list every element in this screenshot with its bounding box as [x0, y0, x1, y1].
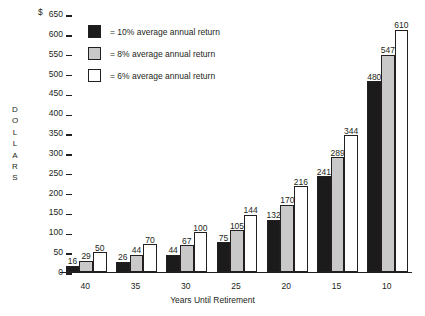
bar-value-label: 216 — [294, 178, 308, 187]
bar: 44 — [166, 255, 180, 272]
y-axis-tick-mark — [66, 273, 72, 274]
bar-value-label: 75 — [219, 234, 228, 243]
bar-value-label: 289 — [330, 149, 344, 158]
bar: 75 — [217, 242, 231, 272]
x-axis-tick-label: 30 — [161, 281, 211, 291]
y-axis-title: DOLLARS — [8, 104, 22, 184]
bar-group: 132170216 — [267, 14, 308, 272]
y-axis-title-letter: R — [8, 161, 22, 172]
bar: 289 — [331, 157, 345, 272]
x-axis-tick-label: 20 — [261, 281, 311, 291]
bar-value-label: 241 — [317, 168, 331, 177]
bar: 132 — [267, 220, 281, 272]
x-axis-tick-label: 35 — [110, 281, 160, 291]
bar-group: 162950 — [66, 14, 107, 272]
bar: 70 — [143, 244, 157, 272]
bar-value-label: 547 — [381, 46, 395, 55]
bar-value-label: 610 — [394, 21, 408, 30]
bar: 26 — [116, 262, 130, 272]
x-axis-tick-label: 25 — [211, 281, 261, 291]
bar-group: 241289344 — [317, 14, 358, 272]
bar-value-label: 44 — [168, 246, 177, 255]
x-axis-tick-label: 40 — [60, 281, 110, 291]
bar-group: 480547610 — [367, 14, 408, 272]
y-axis-title-letter: D — [8, 104, 22, 115]
bar-value-label: 50 — [95, 244, 104, 253]
bar-value-label: 344 — [344, 127, 358, 136]
bar: 144 — [244, 215, 258, 272]
bar: 100 — [194, 232, 208, 272]
y-axis-title-letter: L — [8, 138, 22, 149]
y-axis-title-letter: L — [8, 127, 22, 138]
y-axis-title-letter: A — [8, 150, 22, 161]
bar-value-label: 29 — [81, 252, 90, 261]
bar-value-label: 16 — [68, 257, 77, 266]
x-axis-baseline — [60, 272, 412, 273]
bar: 105 — [230, 230, 244, 272]
bar-value-label: 105 — [230, 222, 244, 231]
bar: 67 — [180, 245, 194, 272]
bar: 170 — [280, 205, 294, 272]
x-axis-title: Years Until Retirement — [0, 295, 425, 305]
bar: 610 — [395, 30, 409, 272]
bar-group: 4467100 — [166, 14, 207, 272]
bar-value-label: 144 — [243, 206, 257, 215]
bar: 50 — [93, 252, 107, 272]
y-axis-title-letter: O — [8, 115, 22, 126]
y-axis-title-letter: S — [8, 172, 22, 183]
bar-value-label: 480 — [367, 73, 381, 82]
bar: 547 — [381, 55, 395, 272]
bar-value-label: 100 — [193, 224, 207, 233]
bar-value-label: 26 — [118, 253, 127, 262]
bar: 344 — [344, 135, 358, 272]
plot-area: 1629502644704467100751051441321702162412… — [60, 14, 412, 272]
bar: 216 — [294, 186, 308, 272]
bar-value-label: 70 — [145, 236, 154, 245]
bar: 29 — [79, 261, 93, 273]
bar: 241 — [317, 176, 331, 272]
bar-value-label: 132 — [267, 211, 281, 220]
x-axis-tick-label: 10 — [362, 281, 412, 291]
bar: 480 — [367, 81, 381, 272]
bar-value-label: 67 — [182, 237, 191, 246]
bar: 44 — [130, 255, 144, 272]
bar-chart: DOLLARS $ 650600550500450400350300250200… — [0, 0, 425, 316]
bar-value-label: 170 — [280, 196, 294, 205]
bar-group: 264470 — [116, 14, 157, 272]
bar-value-label: 44 — [132, 246, 141, 255]
bar-group: 75105144 — [217, 14, 258, 272]
x-axis-tick-label: 15 — [311, 281, 361, 291]
